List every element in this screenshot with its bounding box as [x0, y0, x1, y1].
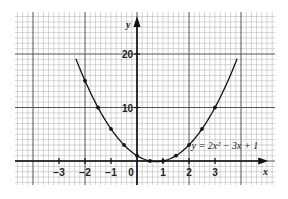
data-point	[174, 154, 178, 158]
x-tick-label: −2	[79, 167, 91, 178]
data-point	[135, 154, 139, 158]
x-tick-label: 1	[160, 167, 166, 178]
y-axis-label: y	[125, 19, 131, 30]
parabola-chart: −3−2−101231020 x y y = 2x² − 3x + 1	[0, 0, 288, 199]
x-tick-label: 3	[212, 167, 218, 178]
data-point	[83, 79, 87, 83]
data-point	[122, 143, 126, 147]
x-tick-label: 0	[128, 167, 134, 178]
data-point	[148, 159, 152, 163]
equation-label: y = 2x² − 3x + 1	[191, 140, 259, 151]
data-point	[200, 127, 204, 131]
x-tick-label: −3	[53, 167, 65, 178]
x-axis-label: x	[262, 166, 268, 177]
y-axis-arrow-icon	[134, 16, 141, 27]
y-tick-label: 10	[122, 103, 134, 114]
data-point	[187, 143, 191, 147]
y-tick-label: 20	[122, 49, 134, 60]
data-point	[109, 127, 113, 131]
data-point	[96, 106, 100, 110]
data-point	[213, 106, 217, 110]
data-point	[161, 159, 165, 163]
tick-labels: −3−2−101231020	[53, 49, 218, 178]
axes	[15, 16, 268, 185]
x-tick-label: 2	[186, 167, 192, 178]
x-tick-label: −1	[105, 167, 117, 178]
